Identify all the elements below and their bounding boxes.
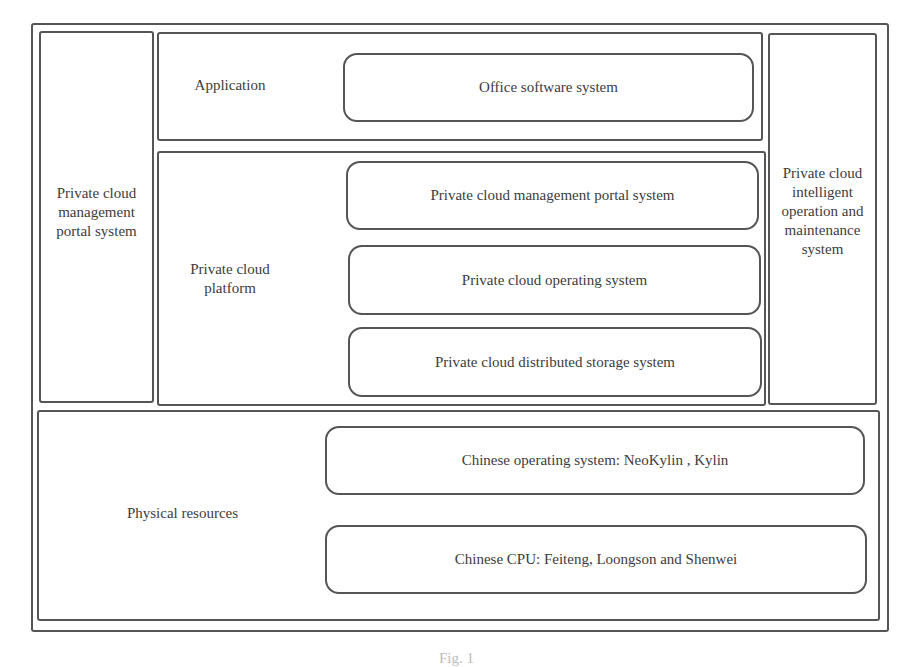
office-software-system-label: Office software system: [479, 79, 618, 96]
intelligent-om-panel-label: Private cloud intelligent operation and …: [768, 164, 877, 259]
chinese-os-box: Chinese operating system: NeoKylin , Kyl…: [325, 426, 865, 495]
application-layer-label: Application: [185, 76, 275, 95]
chinese-os-label: Chinese operating system: NeoKylin , Kyl…: [462, 452, 729, 469]
physical-layer-label: Physical resources: [100, 504, 265, 523]
platform-storage-system-label: Private cloud distributed storage system: [435, 354, 675, 371]
platform-storage-system-box: Private cloud distributed storage system: [348, 327, 762, 397]
chinese-cpu-label: Chinese CPU: Feiteng, Loongson and Shenw…: [455, 551, 737, 568]
platform-layer-label: Private cloud platform: [170, 260, 290, 298]
platform-operating-system-label: Private cloud operating system: [462, 272, 647, 289]
platform-operating-system-box: Private cloud operating system: [348, 245, 761, 315]
office-software-system-box: Office software system: [343, 53, 754, 122]
platform-management-portal-label: Private cloud management portal system: [430, 187, 674, 204]
chinese-cpu-box: Chinese CPU: Feiteng, Loongson and Shenw…: [325, 525, 867, 594]
figure-caption: Fig. 1: [0, 650, 913, 667]
management-portal-panel-label: Private cloud management portal system: [39, 184, 154, 241]
platform-management-portal-box: Private cloud management portal system: [346, 161, 759, 230]
